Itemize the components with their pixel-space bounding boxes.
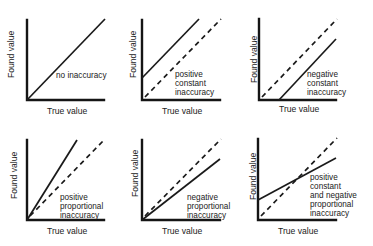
panel-no-inaccuracy [27, 19, 105, 100]
y-axis-label: Found value [9, 152, 19, 199]
panel-label: negative proportional inaccuracy [187, 193, 230, 220]
panel-label: positive constant and negative proportio… [310, 173, 357, 218]
x-axis-label: True value [47, 106, 87, 116]
panel-label: negative constant inaccuracy [307, 70, 346, 97]
panel-label: no inaccuracy [56, 71, 107, 80]
panel-label: positive proportional inaccuracy [60, 193, 103, 220]
y-axis-label: Found value [6, 31, 16, 78]
x-axis-label: True value [162, 226, 202, 236]
x-axis-label: True value [162, 106, 202, 116]
x-axis-label: True value [47, 226, 87, 236]
x-axis-label: True value [279, 104, 319, 114]
y-axis-label: Found value [130, 150, 140, 197]
panel-label: positive constant inaccuracy [175, 70, 214, 97]
y-axis-label: Found value [249, 36, 259, 83]
y-axis-label: Found value [248, 153, 258, 200]
y-axis-label: Found value [128, 31, 138, 78]
found-line [27, 19, 105, 100]
x-axis-label: True value [278, 226, 318, 236]
